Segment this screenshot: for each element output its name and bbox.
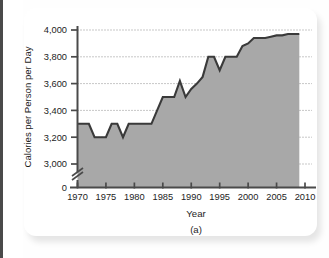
y-tick-label: 3,400 <box>44 106 67 116</box>
x-tick-label: 1980 <box>124 192 145 202</box>
chart-container: 03,0003,2003,4003,6003,8004,000 19701975… <box>0 0 329 258</box>
x-tick-label: 1975 <box>96 192 117 202</box>
x-tick-label: 2000 <box>238 192 259 202</box>
x-tick-label: 1990 <box>181 192 202 202</box>
x-axis-tick-labels: 197019751980198519901995200020052010 <box>67 192 315 202</box>
y-tick-label: 3,000 <box>44 159 67 169</box>
y-tick-label: 3,200 <box>44 133 67 143</box>
x-tick-label: 1970 <box>67 192 88 202</box>
x-axis-title: Year <box>186 208 206 219</box>
x-tick-label: 2010 <box>295 192 316 202</box>
x-tick-label: 1995 <box>209 192 230 202</box>
y-axis-title: Calories per Person per Day <box>22 46 33 167</box>
y-tick-label: 3,600 <box>44 79 67 89</box>
panel-label: (a) <box>190 224 202 235</box>
x-tick-label: 2005 <box>266 192 287 202</box>
calories-per-person-per-day-area-chart: 03,0003,2003,4003,6003,8004,000 19701975… <box>0 0 329 258</box>
page-background: 03,0003,2003,4003,6003,8004,000 19701975… <box>0 0 329 258</box>
y-tick-label: 4,000 <box>44 25 67 35</box>
y-tick-label: 3,800 <box>44 52 67 62</box>
x-tick-label: 1985 <box>152 192 173 202</box>
y-axis-tick-labels: 03,0003,2003,4003,6003,8004,000 <box>44 25 67 193</box>
